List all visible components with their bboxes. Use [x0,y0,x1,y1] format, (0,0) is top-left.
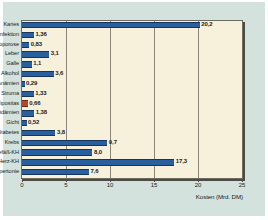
bar-row: 1,36 [22,31,242,41]
bar [22,169,89,175]
bar [22,42,29,48]
bar-row: 0,66 [22,100,242,110]
category-label: Karies [3,20,19,30]
bar [22,110,34,116]
bar [22,71,54,77]
x-axis-title: Kosten (Mrd. DM) [196,193,243,200]
category-label: Osteoporose [0,40,19,50]
bar [22,159,174,165]
bar [22,100,28,106]
bar-row: 3,6 [22,70,242,80]
bar-value-label: 8,0 [94,148,102,158]
bar-row: 3,8 [22,129,242,139]
x-axis-tick-label: 10 [107,182,114,188]
category-label: Hyperlipidämien [0,108,19,118]
x-axis-tick-label: 0 [20,182,23,188]
category-label: Struma [1,89,19,99]
bars-container: 20,21,360,833,11,13,60,291,330,661,380,5… [22,21,242,178]
category-label: Krebs [5,138,19,148]
category-label: Übn-Infektion [0,30,19,40]
category-label: Gefäß-KH [0,148,19,158]
bar [22,91,34,97]
bar-value-label: 3,6 [55,69,63,79]
bar-value-label: 1,38 [36,108,47,118]
bar-row: 7,6 [22,168,242,178]
category-label: Anämien [0,79,19,89]
bar-row: 0,29 [22,80,242,90]
category-axis-labels: KariesÜbn-InfektionOsteoporoseLeberGalle… [0,20,20,179]
bar-row: 9,7 [22,139,242,149]
bar [22,120,27,126]
category-label: Herz-KH [0,157,19,167]
category-label: Leber [5,49,19,59]
bar-row: 1,33 [22,90,242,100]
bar-value-label: 3,8 [57,128,65,138]
bar-value-label: 17,3 [176,157,187,167]
bar [22,32,34,38]
bar-row: 3,1 [22,50,242,60]
bar-value-label: 3,1 [51,49,59,59]
bar-row: 20,2 [22,21,242,31]
x-axis-tick-label: 15 [151,182,158,188]
bar-row: 17,3 [22,158,242,168]
bar-value-label: 0,29 [26,79,37,89]
bar-value-label: 0,66 [29,99,40,109]
category-label: Hypertonie [0,167,19,177]
bar-value-label: 1,33 [35,89,46,99]
category-label: Gicht [6,118,19,128]
category-label: Adipositas [0,99,19,109]
bar [22,130,55,136]
x-axis-tick-label: 5 [64,182,67,188]
x-axis-tick-label: 25 [239,182,246,188]
chart-figure: 20,21,360,833,11,13,60,291,330,661,380,5… [0,0,268,220]
category-label: Alkohol [1,69,19,79]
bar [22,51,49,57]
bar [22,22,200,28]
bar-value-label: 20,2 [201,20,212,30]
bar-value-label: 9,7 [109,138,117,148]
bar [22,81,25,87]
bar [22,149,92,155]
category-label: Diabetes [0,128,19,138]
bar-value-label: 1,1 [33,59,41,69]
x-axis: 0510152025 [21,179,243,193]
bar [22,140,107,146]
bar-value-label: 0,83 [31,40,42,50]
bar-value-label: 7,6 [90,167,98,177]
plot-area: 20,21,360,833,11,13,60,291,330,661,380,5… [21,20,243,179]
bar-row: 8,0 [22,149,242,159]
x-axis-tick-label: 20 [195,182,202,188]
bar-row: 0,52 [22,119,242,129]
bar-value-label: 0,52 [28,118,39,128]
bar-value-label: 1,36 [35,30,46,40]
gridline [242,21,243,178]
bar-row: 1,38 [22,109,242,119]
category-label: Galle [6,59,19,69]
bar [22,61,32,67]
